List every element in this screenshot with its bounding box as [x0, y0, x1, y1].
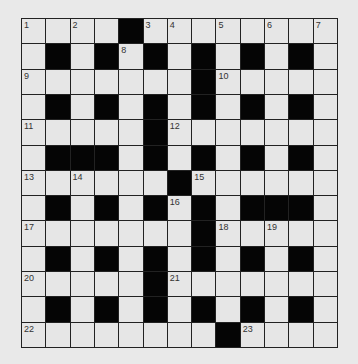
answer-square[interactable]: [216, 146, 239, 170]
answer-square[interactable]: [71, 297, 94, 321]
answer-square[interactable]: [119, 221, 142, 245]
answer-square[interactable]: [71, 272, 94, 296]
answer-square[interactable]: [168, 247, 191, 271]
answer-square[interactable]: [95, 70, 118, 94]
answer-square[interactable]: [46, 272, 69, 296]
answer-square[interactable]: 17: [22, 221, 45, 245]
answer-square[interactable]: 16: [168, 196, 191, 220]
answer-square[interactable]: 14: [71, 171, 94, 195]
answer-square[interactable]: [119, 70, 142, 94]
answer-square[interactable]: [314, 95, 337, 119]
answer-square[interactable]: [265, 120, 288, 144]
answer-square[interactable]: [192, 19, 215, 43]
answer-square[interactable]: [168, 95, 191, 119]
answer-square[interactable]: [265, 171, 288, 195]
answer-square[interactable]: [22, 146, 45, 170]
answer-square[interactable]: 12: [168, 120, 191, 144]
answer-square[interactable]: [119, 247, 142, 271]
answer-square[interactable]: [289, 323, 312, 347]
answer-square[interactable]: [71, 120, 94, 144]
answer-square[interactable]: [265, 146, 288, 170]
answer-square[interactable]: [192, 323, 215, 347]
answer-square[interactable]: [265, 95, 288, 119]
answer-square[interactable]: [168, 70, 191, 94]
answer-square[interactable]: 22: [22, 323, 45, 347]
answer-square[interactable]: [241, 70, 264, 94]
answer-square[interactable]: [71, 221, 94, 245]
answer-square[interactable]: [168, 297, 191, 321]
answer-square[interactable]: [144, 171, 167, 195]
answer-square[interactable]: [314, 171, 337, 195]
answer-square[interactable]: [265, 323, 288, 347]
answer-square[interactable]: [216, 44, 239, 68]
answer-square[interactable]: [289, 221, 312, 245]
answer-square[interactable]: [95, 272, 118, 296]
answer-square[interactable]: [144, 323, 167, 347]
answer-square[interactable]: 13: [22, 171, 45, 195]
answer-square[interactable]: [119, 120, 142, 144]
answer-square[interactable]: [241, 221, 264, 245]
answer-square[interactable]: [314, 272, 337, 296]
answer-square[interactable]: [265, 297, 288, 321]
answer-square[interactable]: [119, 95, 142, 119]
answer-square[interactable]: [314, 70, 337, 94]
answer-square[interactable]: [289, 120, 312, 144]
answer-square[interactable]: [314, 297, 337, 321]
answer-square[interactable]: [314, 323, 337, 347]
answer-square[interactable]: 9: [22, 70, 45, 94]
answer-square[interactable]: [46, 323, 69, 347]
answer-square[interactable]: [95, 171, 118, 195]
answer-square[interactable]: [22, 95, 45, 119]
answer-square[interactable]: [192, 272, 215, 296]
answer-square[interactable]: [71, 323, 94, 347]
answer-square[interactable]: [314, 221, 337, 245]
answer-square[interactable]: [144, 221, 167, 245]
answer-square[interactable]: [241, 120, 264, 144]
answer-square[interactable]: [289, 70, 312, 94]
answer-square[interactable]: [22, 297, 45, 321]
answer-square[interactable]: [216, 95, 239, 119]
answer-square[interactable]: [119, 323, 142, 347]
answer-square[interactable]: [314, 247, 337, 271]
answer-square[interactable]: [216, 120, 239, 144]
answer-square[interactable]: [119, 196, 142, 220]
answer-square[interactable]: 7: [314, 19, 337, 43]
answer-square[interactable]: [289, 171, 312, 195]
answer-square[interactable]: 10: [216, 70, 239, 94]
answer-square[interactable]: [216, 297, 239, 321]
answer-square[interactable]: [314, 146, 337, 170]
answer-square[interactable]: [119, 272, 142, 296]
answer-square[interactable]: [46, 70, 69, 94]
answer-square[interactable]: 19: [265, 221, 288, 245]
answer-square[interactable]: [95, 221, 118, 245]
answer-square[interactable]: [71, 196, 94, 220]
answer-square[interactable]: 23: [241, 323, 264, 347]
answer-square[interactable]: [265, 70, 288, 94]
answer-square[interactable]: [289, 272, 312, 296]
answer-square[interactable]: [192, 120, 215, 144]
answer-square[interactable]: [241, 19, 264, 43]
answer-square[interactable]: 3: [144, 19, 167, 43]
answer-square[interactable]: [95, 323, 118, 347]
answer-square[interactable]: [314, 196, 337, 220]
answer-square[interactable]: [71, 70, 94, 94]
answer-square[interactable]: [216, 272, 239, 296]
answer-square[interactable]: 15: [192, 171, 215, 195]
answer-square[interactable]: [265, 247, 288, 271]
answer-square[interactable]: [168, 44, 191, 68]
answer-square[interactable]: [216, 171, 239, 195]
answer-square[interactable]: [119, 297, 142, 321]
answer-square[interactable]: [95, 120, 118, 144]
answer-square[interactable]: 21: [168, 272, 191, 296]
answer-square[interactable]: [289, 19, 312, 43]
answer-square[interactable]: [119, 171, 142, 195]
answer-square[interactable]: [216, 196, 239, 220]
answer-square[interactable]: [216, 247, 239, 271]
answer-square[interactable]: [71, 247, 94, 271]
answer-square[interactable]: [144, 70, 167, 94]
answer-square[interactable]: [71, 95, 94, 119]
answer-square[interactable]: [168, 221, 191, 245]
answer-square[interactable]: [46, 19, 69, 43]
answer-square[interactable]: [314, 120, 337, 144]
answer-square[interactable]: 1: [22, 19, 45, 43]
